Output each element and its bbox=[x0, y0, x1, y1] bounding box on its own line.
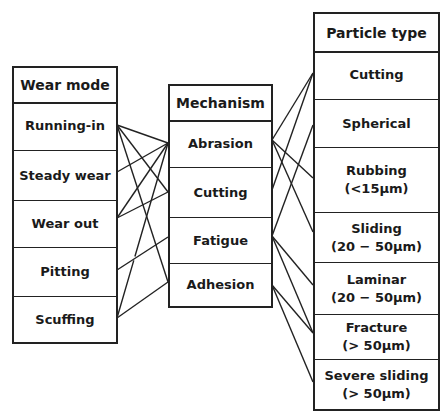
link-scuffing-abrasion bbox=[117, 143, 168, 318]
wear-mode-steady-wear: Steady wear bbox=[14, 150, 116, 200]
particle-type-column: Particle type Cutting Spherical Rubbing … bbox=[313, 12, 440, 411]
link-wearout-cutting bbox=[117, 192, 168, 218]
wear-mode-running-in: Running-in bbox=[14, 102, 116, 150]
link-fatigue-laminar bbox=[272, 236, 313, 285]
link-wearout-abrasion bbox=[117, 143, 168, 218]
wear-mode-column: Wear mode Running-in Steady wear Wear ou… bbox=[12, 66, 118, 344]
particle-laminar: Laminar (20 − 50µm) bbox=[315, 262, 438, 314]
particle-cutting: Cutting bbox=[315, 51, 438, 99]
mechanism-abrasion: Abrasion bbox=[170, 120, 271, 167]
link-adhesion-fracture bbox=[272, 285, 313, 333]
particle-severe-sliding: Severe sliding (> 50µm) bbox=[315, 359, 438, 409]
link-fatigue-fracture bbox=[272, 236, 313, 333]
wear-mode-pitting: Pitting bbox=[14, 247, 116, 296]
wear-mode-header: Wear mode bbox=[14, 68, 116, 104]
particle-spherical: Spherical bbox=[315, 99, 438, 147]
link-runningin-cutting bbox=[117, 125, 168, 192]
mechanism-header: Mechanism bbox=[170, 86, 271, 122]
link-scuffing-adhesion bbox=[117, 282, 168, 318]
wear-mode-wear-out: Wear out bbox=[14, 200, 116, 247]
link-adhesion-severe bbox=[272, 285, 313, 382]
particle-rubbing: Rubbing (<15µm) bbox=[315, 147, 438, 212]
link-pitting-fatigue bbox=[117, 237, 168, 270]
mechanism-adhesion: Adhesion bbox=[170, 263, 271, 306]
mechanism-cutting: Cutting bbox=[170, 167, 271, 217]
particle-type-header: Particle type bbox=[315, 14, 438, 53]
mechanism-fatigue: Fatigue bbox=[170, 217, 271, 263]
particle-sliding: Sliding (20 − 50µm) bbox=[315, 212, 438, 262]
link-runningin-adhesion bbox=[117, 125, 168, 282]
wear-mode-scuffing: Scuffing bbox=[14, 296, 116, 342]
particle-fracture: Fracture (> 50µm) bbox=[315, 314, 438, 359]
mechanism-column: Mechanism Abrasion Cutting Fatigue Adhes… bbox=[168, 84, 273, 308]
